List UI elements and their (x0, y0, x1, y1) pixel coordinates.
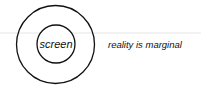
outer-label: reality is marginal (108, 39, 183, 50)
diagram-canvas: screen reality is marginal (0, 0, 201, 87)
inner-label: screen (39, 38, 72, 50)
